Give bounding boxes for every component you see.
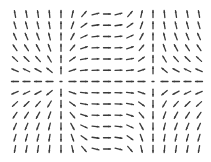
vector-arrow [115, 24, 122, 26]
vector-arrow [92, 47, 99, 49]
vector-arrow [127, 114, 134, 116]
vector-arrow [186, 123, 189, 129]
vector-arrow [104, 114, 111, 116]
vector-arrow [92, 24, 99, 26]
vector-arrow [81, 103, 88, 105]
vector-arrow [152, 89, 154, 96]
vector-arrow [37, 22, 39, 29]
vector-arrow [37, 134, 39, 141]
vector-arrow [104, 24, 111, 26]
vector-arrow [115, 80, 122, 82]
vector-arrow [175, 134, 177, 141]
vector-arrow [104, 58, 111, 60]
vector-arrow [23, 91, 29, 94]
vector-arrow [127, 58, 134, 60]
vector-arrow [60, 33, 62, 40]
vector-arrow [25, 112, 29, 118]
vector-arrow [47, 68, 52, 72]
vector-arrow [35, 91, 41, 94]
vector-arrow [162, 91, 167, 95]
vector-arrow [175, 22, 177, 29]
vector-arrow [48, 134, 50, 141]
vector-arrow [127, 46, 134, 48]
vector-arrow [37, 11, 39, 18]
vector-arrow [196, 57, 201, 62]
vector-arrow [161, 80, 168, 82]
vector-arrow [185, 102, 190, 107]
vector-arrow [24, 102, 29, 107]
vector-arrow [152, 11, 154, 18]
vector-arrow [92, 148, 99, 150]
vector-arrow [71, 123, 74, 129]
vector-arrow [127, 69, 134, 71]
vector-arrow [115, 58, 122, 60]
vector-arrow [152, 56, 154, 63]
vector-arrow [60, 56, 62, 63]
vector-arrow [104, 137, 111, 139]
vector-arrow [104, 47, 111, 49]
vector-arrow [46, 80, 53, 82]
vector-arrow [71, 134, 74, 141]
vector-arrow [115, 148, 122, 150]
vector-arrow [163, 11, 165, 18]
vector-arrow [81, 35, 87, 38]
vector-arrow [163, 56, 167, 62]
vector-arrow [197, 123, 200, 129]
vector-arrow [115, 13, 122, 15]
vector-arrow [13, 123, 16, 129]
vector-arrow [163, 33, 165, 40]
vector-arrow [127, 103, 134, 105]
vector-arrow [48, 11, 50, 18]
vector-arrow [47, 91, 52, 95]
vector-arrow [81, 114, 88, 116]
vector-arrow [23, 69, 29, 72]
vector-arrow [14, 22, 16, 29]
vector-arrow [82, 11, 87, 16]
vector-arrow [25, 22, 27, 29]
vector-arrow [140, 33, 143, 39]
vector-arrow [173, 69, 179, 72]
vector-arrow [175, 11, 177, 18]
vector-arrow [92, 103, 99, 105]
vector-arrow [60, 101, 62, 108]
vector-arrow [25, 33, 28, 39]
vector-arrow [138, 92, 145, 95]
vector-arrow [92, 92, 99, 94]
quiver-plot [0, 0, 211, 162]
vector-arrow [163, 146, 165, 153]
vector-arrow [152, 112, 154, 119]
vector-arrow [198, 22, 200, 29]
vector-arrow [12, 102, 17, 107]
vector-arrow [115, 69, 122, 71]
vector-arrow [60, 123, 62, 130]
vector-arrow [60, 134, 62, 141]
vector-arrow [138, 69, 145, 72]
vector-arrow [163, 112, 166, 119]
vector-arrow [104, 92, 111, 94]
vector-arrow [115, 35, 122, 37]
vector-arrow [115, 126, 122, 128]
vector-arrow [138, 80, 145, 82]
vector-arrow [127, 23, 133, 27]
vector-arrow [162, 68, 167, 72]
vector-arrow [48, 44, 51, 51]
vector-arrow [82, 146, 87, 151]
vector-arrow [25, 123, 28, 129]
vector-arrow [174, 45, 177, 51]
vector-arrow [48, 101, 52, 107]
vector-arrow [92, 126, 99, 128]
vector-arrow [115, 137, 122, 139]
vector-arrow [60, 67, 62, 74]
vector-arrow [48, 146, 50, 153]
vector-arrow [14, 146, 16, 153]
vector-arrow [60, 146, 62, 153]
vector-arrow [152, 22, 154, 29]
vector-arrow [175, 33, 178, 40]
vector-arrow [104, 13, 111, 15]
vector-arrow [25, 146, 27, 153]
vector-arrow [186, 33, 189, 39]
vector-arrow [13, 112, 17, 118]
vector-arrow [13, 45, 17, 51]
vector-arrow [196, 80, 203, 82]
vector-arrow [197, 112, 201, 118]
